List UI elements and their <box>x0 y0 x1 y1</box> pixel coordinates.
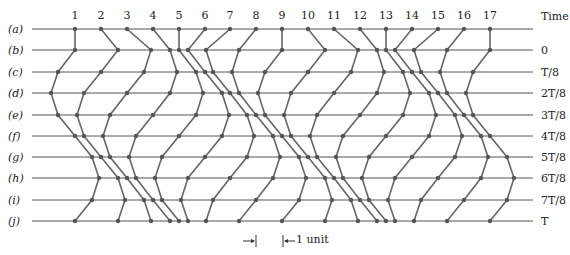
particle-dot <box>149 48 153 52</box>
particle-dot <box>412 48 416 52</box>
particle-number-8: 8 <box>253 9 260 22</box>
particle-dot <box>203 27 207 31</box>
particle-dot <box>479 134 483 138</box>
particle-dot <box>230 70 234 74</box>
particle-dot <box>73 134 77 138</box>
particle-dot <box>341 176 345 180</box>
particle-dot <box>168 48 172 52</box>
particle-dot <box>108 113 112 117</box>
particle-dot <box>245 113 249 117</box>
particle-dot <box>462 27 466 31</box>
particle-dot <box>471 113 475 117</box>
particle-dot <box>177 27 181 31</box>
row-label: (h) <box>8 172 24 185</box>
particle-dot <box>227 113 231 117</box>
particle-dot <box>90 198 94 202</box>
scale-bar-label: 1 unit <box>296 233 329 246</box>
particle-dot <box>358 113 362 117</box>
particle-dot <box>127 155 131 159</box>
particle-dot <box>123 198 127 202</box>
particle-number-3: 3 <box>124 9 131 22</box>
particle-number-17: 17 <box>483 9 497 22</box>
particle-dot <box>201 91 205 95</box>
particle-dot <box>306 27 310 31</box>
time-header: Time <box>541 10 569 23</box>
particle-dot <box>315 155 319 159</box>
particle-dot <box>419 198 423 202</box>
particle-dot <box>75 113 79 117</box>
particle-number-2: 2 <box>98 9 105 22</box>
particle-dot <box>186 48 190 52</box>
particle-dot <box>315 113 319 117</box>
particle-number-10: 10 <box>301 9 315 22</box>
particle-track-7 <box>206 29 254 221</box>
particle-dot <box>308 134 312 138</box>
particle-dot <box>125 176 129 180</box>
particle-dot <box>453 155 457 159</box>
particle-dot <box>410 155 414 159</box>
particle-dot <box>297 155 301 159</box>
particle-track-15 <box>414 29 462 221</box>
particle-dot <box>367 198 371 202</box>
particle-dot <box>512 176 516 180</box>
particle-dot <box>153 176 157 180</box>
particle-dot <box>356 48 360 52</box>
particle-dot <box>488 219 492 223</box>
particle-dot <box>194 70 198 74</box>
particle-dot <box>125 91 129 95</box>
particle-dot <box>82 134 86 138</box>
particle-dot <box>151 113 155 117</box>
particle-dot <box>384 27 388 31</box>
particle-dot <box>332 91 336 95</box>
particle-track-9 <box>258 29 306 221</box>
particle-dot <box>382 70 386 74</box>
particle-dot <box>160 198 164 202</box>
wave-figure <box>0 0 570 255</box>
particle-dot <box>211 70 215 74</box>
particle-track-10 <box>284 29 332 221</box>
particle-track-2 <box>77 29 125 221</box>
particle-dot <box>228 91 232 95</box>
time-label: 7T/8 <box>541 194 566 207</box>
time-label: 0 <box>541 44 548 57</box>
particle-dot <box>401 70 405 74</box>
particle-dot <box>386 198 390 202</box>
row-label: (i) <box>8 194 20 207</box>
row-label: (c) <box>8 66 23 79</box>
particle-dot <box>204 48 208 52</box>
particle-dot <box>349 198 353 202</box>
particle-dot <box>341 134 345 138</box>
particle-dot <box>177 134 181 138</box>
particle-dot <box>358 27 362 31</box>
particle-dot <box>488 27 492 31</box>
particle-track-5 <box>155 29 203 221</box>
row-label: (e) <box>8 109 23 122</box>
particle-dot <box>99 155 103 159</box>
particle-dot <box>349 70 353 74</box>
particle-dot <box>384 48 388 52</box>
particle-dot <box>393 48 397 52</box>
particle-dot <box>168 219 172 223</box>
particle-dot <box>330 198 334 202</box>
particle-dot <box>375 219 379 223</box>
particle-dot <box>445 91 449 95</box>
particle-dot <box>471 70 475 74</box>
particle-dot <box>151 27 155 31</box>
time-label: 3T/8 <box>541 109 566 122</box>
particle-dot <box>427 134 431 138</box>
particle-dot <box>453 113 457 117</box>
row-label: (f) <box>8 130 21 143</box>
particle-dot <box>462 113 466 117</box>
particle-dot <box>323 219 327 223</box>
particle-dot <box>505 198 509 202</box>
particle-dot <box>263 113 267 117</box>
particle-dot <box>488 48 492 52</box>
particle-dot <box>434 113 438 117</box>
row-label: (j) <box>8 215 20 228</box>
particle-dot <box>194 113 198 117</box>
particle-dot <box>245 155 249 159</box>
particle-dot <box>384 134 388 138</box>
arrowhead-left-icon <box>284 239 288 243</box>
particle-dot <box>116 176 120 180</box>
particle-dot <box>99 70 103 74</box>
